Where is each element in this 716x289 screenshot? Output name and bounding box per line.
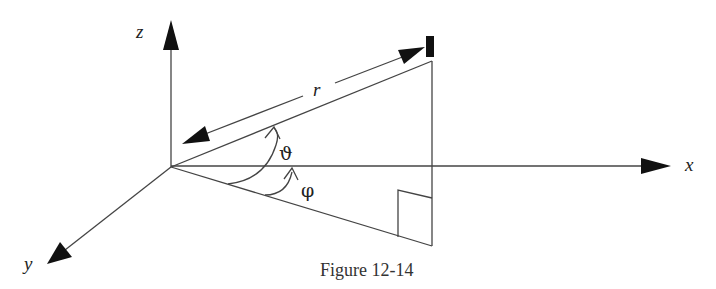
- radius-line: [171, 61, 432, 167]
- theta-arc: [228, 128, 278, 184]
- x-axis-arrowhead: [641, 158, 671, 174]
- spherical-coordinates-diagram: z x y r ϑ φ Figure 12-14: [0, 0, 716, 289]
- theta-label: ϑ: [279, 142, 293, 164]
- r-dimension-line-lower: [200, 96, 303, 136]
- y-axis-arrowhead: [47, 242, 72, 264]
- y-axis-label: y: [22, 253, 33, 274]
- figure-caption: Figure 12-14: [320, 260, 414, 280]
- phi-label: φ: [301, 179, 314, 201]
- phi-arc: [265, 172, 292, 195]
- right-angle-marker: [398, 190, 432, 237]
- z-axis-label: z: [135, 21, 144, 42]
- r-arrowhead-start: [182, 126, 210, 144]
- point-marker: [426, 36, 434, 57]
- z-axis-arrowhead: [163, 20, 179, 50]
- r-dimension-line-upper: [335, 56, 405, 83]
- y-axis: [65, 167, 171, 250]
- radius-label: r: [313, 79, 321, 100]
- r-arrowhead-end: [398, 47, 425, 64]
- x-axis-label: x: [684, 154, 694, 175]
